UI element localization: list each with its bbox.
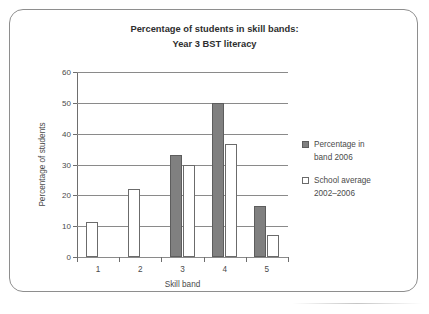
scan-artifact-line xyxy=(292,303,422,304)
y-tick-20 xyxy=(73,195,77,196)
chart-legend: Percentage in band 2006 School average 2… xyxy=(302,139,412,211)
legend-label-series-a: Percentage in band 2006 xyxy=(314,139,365,164)
y-tick-30 xyxy=(73,165,77,166)
chart-title-line-1: Percentage of students in skill bands: xyxy=(0,22,429,37)
y-axis-title-label: Percentage of students xyxy=(38,122,47,206)
bar-series-b-band-3 xyxy=(183,165,195,257)
x-tick-label-band-1: 1 xyxy=(96,265,101,274)
plot-area: 0102030405060 12345 xyxy=(77,72,288,257)
bar-series-a-band-5 xyxy=(254,206,266,257)
x-axis-title: Skill band xyxy=(77,280,288,289)
x-tick-boundary-2 xyxy=(161,257,162,262)
y-tick-label-20: 20 xyxy=(62,191,71,200)
x-tick-boundary-5 xyxy=(288,257,289,262)
y-axis-title: Percentage of students xyxy=(36,72,48,257)
y-tick-label-60: 60 xyxy=(62,68,71,77)
bar-series-a-band-3 xyxy=(170,155,182,257)
x-tick-boundary-0 xyxy=(77,257,78,262)
gridline-60 xyxy=(77,72,288,73)
legend-entry-series-a: Percentage in band 2006 xyxy=(302,139,412,164)
y-tick-label-30: 30 xyxy=(62,160,71,169)
legend-swatch-percentage-in-band-icon xyxy=(302,141,309,148)
legend-label-series-b-line-1: School average xyxy=(314,175,371,188)
x-tick-boundary-3 xyxy=(204,257,205,262)
legend-label-series-a-line-1: Percentage in xyxy=(314,139,365,152)
y-tick-60 xyxy=(73,72,77,73)
y-tick-label-40: 40 xyxy=(62,129,71,138)
bar-series-a-band-4 xyxy=(212,103,224,257)
chart-title: Percentage of students in skill bands: Y… xyxy=(0,22,429,52)
x-tick-boundary-4 xyxy=(246,257,247,262)
gridline-0 xyxy=(77,257,288,258)
bar-series-b-band-4 xyxy=(225,144,237,257)
y-tick-label-50: 50 xyxy=(62,98,71,107)
x-tick-boundary-1 xyxy=(119,257,120,262)
chart-title-line-2: Year 3 BST literacy xyxy=(0,37,429,52)
gridline-40 xyxy=(77,134,288,135)
legend-swatch-school-average-icon xyxy=(302,177,309,184)
bar-series-b-band-2 xyxy=(128,189,140,257)
gridline-50 xyxy=(77,103,288,104)
x-tick-label-band-5: 5 xyxy=(265,265,270,274)
y-tick-label-10: 10 xyxy=(62,222,71,231)
bar-series-b-band-1 xyxy=(86,222,98,257)
y-tick-label-0: 0 xyxy=(67,253,71,262)
x-tick-label-band-2: 2 xyxy=(138,265,143,274)
legend-label-series-b: School average 2002–2006 xyxy=(314,175,371,200)
x-tick-label-band-4: 4 xyxy=(222,265,227,274)
y-tick-40 xyxy=(73,134,77,135)
bar-series-b-band-5 xyxy=(267,235,279,257)
legend-entry-series-b: School average 2002–2006 xyxy=(302,175,412,200)
y-tick-50 xyxy=(73,103,77,104)
x-tick-label-band-3: 3 xyxy=(180,265,185,274)
y-tick-10 xyxy=(73,226,77,227)
legend-label-series-a-line-2: band 2006 xyxy=(314,152,365,165)
legend-label-series-b-line-2: 2002–2006 xyxy=(314,188,371,201)
